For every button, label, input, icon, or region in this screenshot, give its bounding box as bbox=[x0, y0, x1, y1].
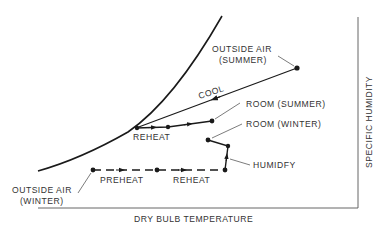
psychrometric-diagram: OUTSIDE AIR (SUMMER) COOL ROOM (SUMMER) … bbox=[0, 0, 383, 231]
leader-room-winter bbox=[212, 124, 242, 138]
leader-humidify bbox=[230, 159, 250, 165]
reheat-summer-path bbox=[136, 121, 212, 128]
point-reheat-summer bbox=[166, 125, 170, 129]
point-outside-air-winter bbox=[91, 168, 96, 173]
humidify-path bbox=[208, 140, 228, 170]
saturation-curve bbox=[38, 16, 222, 171]
y-axis-label: SPECIFIC HUMIDITY bbox=[364, 76, 374, 168]
label-reheat-winter: REHEAT bbox=[173, 175, 210, 185]
label-outside-air-summer-2: (SUMMER) bbox=[219, 55, 267, 65]
label-humidify: HUMIDFY bbox=[253, 160, 296, 170]
point-humidify-bottom bbox=[223, 168, 228, 173]
leader-outside-winter bbox=[78, 173, 91, 193]
label-preheat: PREHEAT bbox=[100, 175, 144, 185]
humidify-arrow bbox=[226, 156, 227, 161]
x-axis-label: DRY BULB TEMPERATURE bbox=[134, 214, 253, 224]
leader-room-summer bbox=[215, 103, 240, 119]
label-outside-air-summer-1: OUTSIDE AIR bbox=[212, 44, 272, 54]
label-outside-air-winter-2: (WINTER) bbox=[20, 196, 64, 206]
point-room-winter bbox=[206, 138, 211, 143]
point-cooling-saturation bbox=[135, 126, 139, 130]
label-reheat-summer: REHEAT bbox=[133, 132, 170, 142]
label-cool: COOL bbox=[197, 83, 225, 101]
point-humidify-top bbox=[226, 144, 230, 148]
label-room-winter: ROOM (WINTER) bbox=[246, 119, 321, 129]
point-outside-air-summer bbox=[294, 65, 299, 70]
label-outside-air-winter-1: OUTSIDE AIR bbox=[12, 185, 72, 195]
label-room-summer: ROOM (SUMMER) bbox=[246, 99, 326, 109]
leader-outside-summer bbox=[278, 56, 294, 66]
point-room-summer bbox=[210, 119, 215, 124]
cool-arrow bbox=[214, 97, 220, 99]
point-preheat-end bbox=[155, 168, 160, 173]
